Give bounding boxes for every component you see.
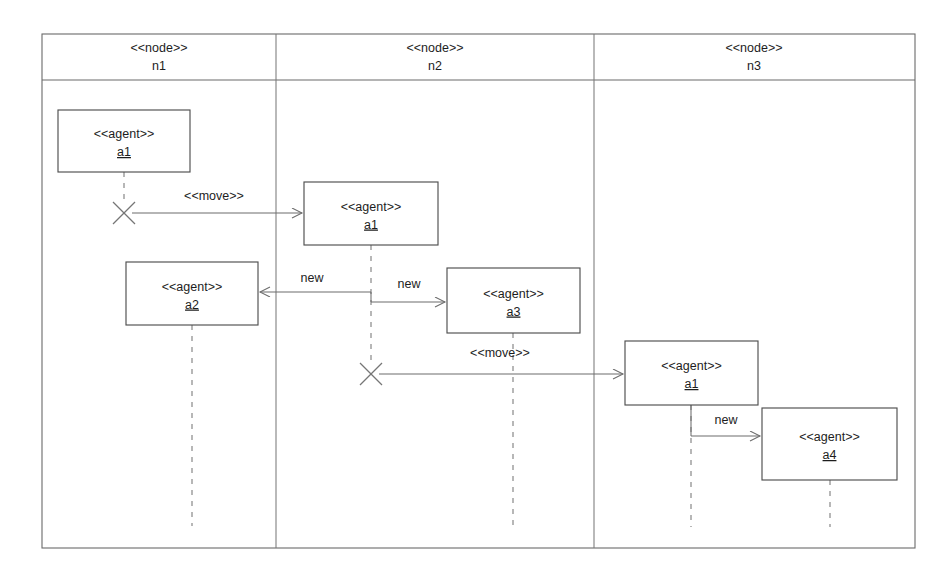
agent-stereotype-label: <<agent>> [483, 287, 543, 301]
agent-box-rect[interactable] [625, 341, 758, 405]
agent-box-a1-n3[interactable]: <<agent>>a1 [625, 341, 758, 405]
agent-name-label: a1 [364, 218, 378, 232]
node-header-n2: <<node>>n2 [406, 41, 463, 73]
agent-name-label: a1 [685, 377, 699, 391]
message-label: new [301, 271, 325, 285]
agent-box-rect[interactable] [304, 182, 438, 245]
agent-box-rect[interactable] [762, 408, 897, 480]
agent-box-rect[interactable] [58, 110, 190, 172]
node-stereotype-label: <<node>> [130, 41, 187, 55]
agent-name-label: a3 [507, 305, 521, 319]
diagram-canvas: <<node>>n1<<node>>n2<<node>>n3 <<move>>n… [0, 0, 949, 581]
node-stereotype-label: <<node>> [406, 41, 463, 55]
message-msg-move-2: <<move>> [379, 346, 623, 374]
agent-stereotype-label: <<agent>> [94, 127, 154, 141]
agent-box-a3-n2[interactable]: <<agent>>a3 [447, 268, 580, 333]
agent-name-label: a2 [185, 298, 199, 312]
message-msg-new-a2: new [260, 271, 371, 292]
node-name-label: n3 [747, 59, 761, 73]
agent-box-a1-n2[interactable]: <<agent>>a1 [304, 182, 438, 245]
message-msg-new-a4: new [691, 413, 760, 436]
termination-x-icon-a1-n1 [113, 202, 135, 224]
agent-box-rect[interactable] [447, 268, 580, 333]
node-name-label: n1 [152, 59, 166, 73]
node-stereotype-label: <<node>> [725, 41, 782, 55]
agent-box-a2-n1[interactable]: <<agent>>a2 [126, 262, 258, 325]
agent-box-a1-n1[interactable]: <<agent>>a1 [58, 110, 190, 172]
agent-stereotype-label: <<agent>> [162, 280, 222, 294]
agent-name-label: a4 [823, 448, 837, 462]
message-label: <<move>> [470, 346, 530, 360]
agent-stereotype-label: <<agent>> [799, 430, 859, 444]
node-header-n3: <<node>>n3 [725, 41, 782, 73]
message-msg-new-a3: new [371, 277, 445, 302]
agent-box-a4-n3[interactable]: <<agent>>a4 [762, 408, 897, 480]
message-label: new [715, 413, 739, 427]
agent-box-rect[interactable] [126, 262, 258, 325]
agent-stereotype-label: <<agent>> [341, 200, 401, 214]
agent-boxes: <<agent>>a1<<agent>>a1<<agent>>a2<<agent… [58, 110, 897, 480]
node-headers: <<node>>n1<<node>>n2<<node>>n3 [130, 41, 782, 73]
node-header-n1: <<node>>n1 [130, 41, 187, 73]
message-label: <<move>> [184, 189, 244, 203]
agent-name-label: a1 [117, 145, 131, 159]
message-label: new [398, 277, 422, 291]
deployment-sequence-diagram: <<node>>n1<<node>>n2<<node>>n3 <<move>>n… [0, 0, 949, 581]
termination-x-icon-a1-n2 [360, 363, 382, 385]
agent-stereotype-label: <<agent>> [661, 359, 721, 373]
node-name-label: n2 [428, 59, 442, 73]
